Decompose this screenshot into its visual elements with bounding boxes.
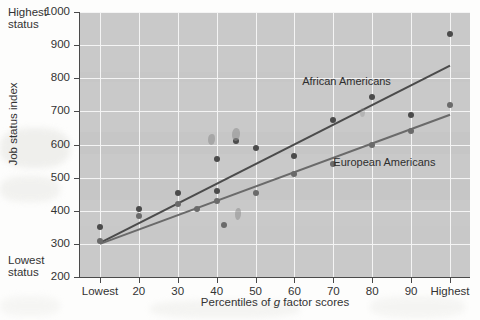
data-point	[447, 31, 453, 37]
data-point	[253, 190, 259, 196]
y-axis-tick	[74, 111, 79, 112]
series-label-european-americans: European Americans	[333, 156, 435, 168]
x-axis-tick	[256, 277, 257, 283]
figure-canvas: Highest status Lowest status Job status …	[0, 0, 480, 320]
y-axis-tick-label: 300	[36, 237, 70, 249]
data-point	[175, 201, 181, 207]
data-point	[214, 198, 220, 204]
y-axis-tick	[74, 12, 79, 13]
y-axis-tick-label: 1000	[36, 5, 70, 17]
fit-line-african-americans	[100, 66, 450, 243]
x-axis-tick	[139, 277, 140, 283]
data-point	[97, 224, 103, 230]
data-point	[175, 190, 181, 196]
x-axis-title-part: Percentiles of	[201, 296, 274, 308]
y-axis-tick-label: 200	[36, 270, 70, 282]
data-point	[253, 145, 259, 151]
axis-note-line: status	[8, 18, 47, 30]
fit-line-european-americans	[100, 115, 450, 244]
data-point	[214, 188, 220, 194]
y-axis-tick-label: 800	[36, 71, 70, 83]
y-axis-title: Job status index	[7, 49, 19, 199]
axis-note-line: Lowest	[8, 254, 44, 266]
y-axis-tick-label: 700	[36, 104, 70, 116]
y-axis-tick	[74, 178, 79, 179]
data-point	[408, 112, 414, 118]
y-axis-tick	[74, 277, 79, 278]
y-axis-tick	[74, 45, 79, 46]
y-axis-tick-label: 400	[36, 204, 70, 216]
x-axis-title-part: factor scores	[280, 296, 349, 308]
x-axis-title: Percentiles of g factor scores	[80, 296, 470, 308]
x-axis-tick	[372, 277, 373, 283]
y-axis-tick	[74, 244, 79, 245]
y-axis-line	[79, 12, 80, 278]
x-axis-tick	[333, 277, 334, 283]
y-axis-tick	[74, 78, 79, 79]
y-axis-tick-label: 600	[36, 138, 70, 150]
data-point	[136, 206, 142, 212]
data-point	[369, 142, 375, 148]
series-label-african-americans: African Americans	[302, 75, 391, 87]
scan-artifact	[0, 296, 60, 316]
y-axis-tick-label: 500	[36, 171, 70, 183]
x-axis-tick	[411, 277, 412, 283]
regression-lines	[80, 12, 470, 277]
plot-area: African Americans European Americans	[80, 12, 470, 277]
x-axis-tick	[450, 277, 451, 283]
data-point	[136, 213, 142, 219]
y-axis-tick	[74, 211, 79, 212]
x-axis-tick	[100, 277, 101, 283]
x-axis-tick	[178, 277, 179, 283]
y-axis-tick-label: 900	[36, 38, 70, 50]
y-axis-tick	[74, 145, 79, 146]
data-point	[97, 238, 103, 244]
x-axis-tick	[294, 277, 295, 283]
x-axis-tick	[217, 277, 218, 283]
data-point	[330, 117, 336, 123]
